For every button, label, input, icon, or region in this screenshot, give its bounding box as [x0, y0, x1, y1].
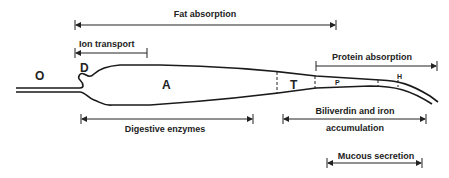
protein-absorption-label: Protein absorption	[332, 52, 412, 62]
mucous-secretion-range: Mucous secretion	[327, 151, 422, 168]
digestive-enzymes-label: Digestive enzymes	[125, 124, 206, 134]
region-label-h: H	[397, 73, 402, 80]
ion-transport-range: Ion transport	[75, 39, 147, 58]
mucous-secretion-label: Mucous secretion	[338, 151, 415, 161]
region-label-t: T	[290, 78, 298, 92]
region-label-a: A	[162, 78, 171, 92]
region-label-p: P	[335, 79, 340, 86]
gut-diagram: Fat absorption Ion transport Protein abs…	[0, 0, 449, 178]
fat-absorption-range: Fat absorption	[75, 9, 336, 30]
biliverdin-label-line1: Biliverdin and iron	[315, 106, 394, 116]
protein-absorption-range: Protein absorption	[316, 52, 437, 71]
biliverdin-range: Biliverdin and iron accumulation	[283, 106, 426, 133]
fat-absorption-label: Fat absorption	[174, 9, 237, 19]
ion-transport-label: Ion transport	[79, 39, 135, 49]
region-label-d: D	[80, 61, 89, 75]
biliverdin-label-line2: accumulation	[326, 123, 384, 133]
digestive-enzymes-range: Digestive enzymes	[81, 114, 253, 134]
region-label-oesophagus: O	[35, 69, 44, 83]
